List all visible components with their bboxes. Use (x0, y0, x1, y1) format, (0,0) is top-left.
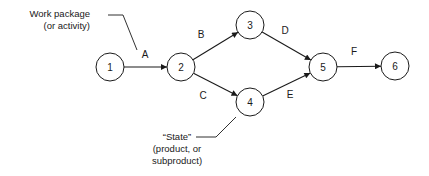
edge-label: C (199, 90, 206, 101)
node-6: 6 (381, 52, 409, 80)
edge-label: F (351, 46, 357, 57)
node-3: 3 (236, 11, 264, 39)
annotation-work-package-line1: Work package (29, 8, 90, 19)
edge-c: C (193, 73, 237, 101)
network-diagram: ABCDEF 123456 Work package (or activity)… (0, 0, 429, 176)
node-label: 2 (178, 62, 184, 73)
edge-label: B (198, 29, 205, 40)
edge-a: A (124, 49, 167, 67)
nodes-group: 123456 (96, 11, 409, 116)
edge-label: E (287, 89, 294, 100)
annotation-state-line1: “State” (163, 131, 192, 142)
annotation-work-package-line2: (or activity) (44, 20, 90, 31)
annotation-state-line3: subproduct) (152, 155, 202, 166)
node-2: 2 (167, 53, 195, 81)
edge-d: D (262, 25, 311, 60)
edge-b: B (193, 29, 238, 60)
annotation-work-package: Work package (or activity) (29, 8, 137, 50)
edge-f: F (337, 46, 381, 67)
node-label: 5 (320, 62, 326, 73)
node-1: 1 (96, 53, 124, 81)
edge-label: D (281, 25, 288, 36)
edge-label: A (142, 49, 149, 60)
node-label: 4 (247, 97, 253, 108)
node-label: 1 (107, 62, 113, 73)
node-5: 5 (309, 53, 337, 81)
node-label: 3 (247, 20, 253, 31)
leader-line-state (196, 117, 236, 137)
node-4: 4 (236, 88, 264, 116)
edge-e: E (263, 73, 311, 100)
annotation-state-line2: (product, or (153, 143, 202, 154)
annotation-state: “State” (product, or subproduct) (152, 117, 236, 166)
arrow-icon (262, 32, 311, 60)
arrow-icon (337, 66, 381, 67)
node-label: 6 (392, 61, 398, 72)
leader-line-work-package (108, 15, 137, 50)
